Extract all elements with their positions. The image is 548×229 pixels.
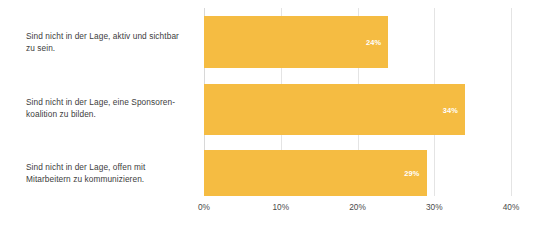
plot-area: 24% 34% 29% (204, 8, 511, 196)
x-tick-label: 30% (426, 202, 443, 212)
bar-0[interactable]: 24% (204, 16, 388, 68)
bar-value-label: 29% (404, 169, 419, 178)
bar-value-label: 24% (366, 38, 381, 47)
bar-row: 24% (204, 16, 511, 68)
x-tick-label: 10% (272, 202, 289, 212)
category-label: Sind nicht in der Lage, offen mit Mitarb… (26, 161, 202, 186)
category-label-column: Sind nicht in der Lage, aktiv und sichtb… (0, 0, 204, 229)
bar-row: 29% (204, 150, 511, 196)
bar-1[interactable]: 34% (204, 84, 465, 135)
x-tick-label: 40% (503, 202, 520, 212)
x-axis: 0% 10% 20% 30% 40% (204, 198, 511, 220)
bar-2[interactable]: 29% (204, 150, 427, 196)
bar-row: 34% (204, 84, 511, 135)
gridline-40 (511, 8, 512, 196)
x-tick-label: 0% (198, 202, 210, 212)
x-tick-label: 20% (349, 202, 366, 212)
bar-chart: Sind nicht in der Lage, aktiv und sichtb… (0, 0, 548, 229)
bar-value-label: 34% (443, 105, 458, 114)
category-label: Sind nicht in der Lage, aktiv und sichtb… (26, 30, 202, 55)
category-label: Sind nicht in der Lage, eine Sponsoren- … (26, 96, 202, 121)
